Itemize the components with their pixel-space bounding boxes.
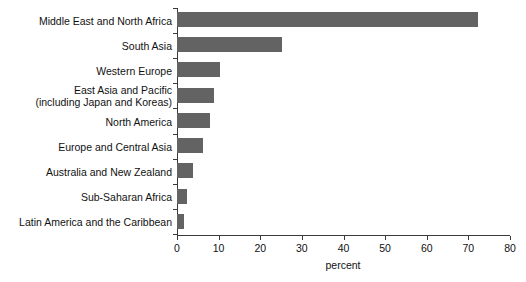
bar (177, 88, 214, 103)
bar-row (177, 84, 510, 109)
bar-row (177, 8, 510, 33)
category-label: Western Europe (0, 65, 172, 77)
x-axis-tick-label: 50 (379, 242, 391, 255)
bar (177, 37, 282, 52)
bar (177, 62, 220, 77)
x-axis-tick-mark (302, 236, 303, 240)
bar-row (177, 185, 510, 210)
bar-row (177, 33, 510, 58)
x-axis-tick-label: 70 (463, 242, 475, 255)
category-label: Europe and Central Asia (0, 141, 172, 153)
x-axis-tick-label: 60 (421, 242, 433, 255)
x-axis-tick-mark (385, 236, 386, 240)
category-label-list: Middle East and North AfricaSouth AsiaWe… (0, 8, 172, 235)
bar (177, 163, 193, 178)
x-axis-title: percent (0, 259, 526, 271)
x-axis-tick-label: 80 (504, 242, 516, 255)
x-axis-tick-mark (510, 236, 511, 240)
x-axis-tick-label: 0 (174, 242, 180, 255)
x-axis-tick-mark (219, 236, 220, 240)
x-axis-tick-mark (344, 236, 345, 240)
x-axis-title-text: percent (325, 259, 360, 271)
bar-row (177, 210, 510, 235)
category-label: Middle East and North Africa (0, 15, 172, 27)
category-label: East Asia and Pacific (including Japan a… (0, 84, 172, 108)
category-label: Australia and New Zealand (0, 166, 172, 178)
bar (177, 138, 203, 153)
x-axis-tick-mark (427, 236, 428, 240)
x-axis-tick-label: 20 (254, 242, 266, 255)
bar (177, 189, 187, 204)
category-label: South Asia (0, 40, 172, 52)
category-label: Latin America and the Caribbean (0, 216, 172, 228)
bar-row (177, 58, 510, 83)
bar (177, 12, 478, 27)
x-axis-tick-label: 30 (296, 242, 308, 255)
plot-area (177, 8, 510, 235)
category-label: Sub-Saharan Africa (0, 191, 172, 203)
bar-chart: Middle East and North AfricaSouth AsiaWe… (0, 0, 526, 282)
bar (177, 113, 210, 128)
x-axis-tick-mark (260, 236, 261, 240)
x-axis-tick-label: 10 (213, 242, 225, 255)
bar-row (177, 159, 510, 184)
x-axis-tick-label: 40 (338, 242, 350, 255)
y-axis-tick (173, 8, 177, 9)
bar (177, 214, 184, 229)
bar-row (177, 134, 510, 159)
category-label: North America (0, 116, 172, 128)
x-axis-tick-mark (468, 236, 469, 240)
x-axis-tick-mark (177, 236, 178, 240)
bar-row (177, 109, 510, 134)
